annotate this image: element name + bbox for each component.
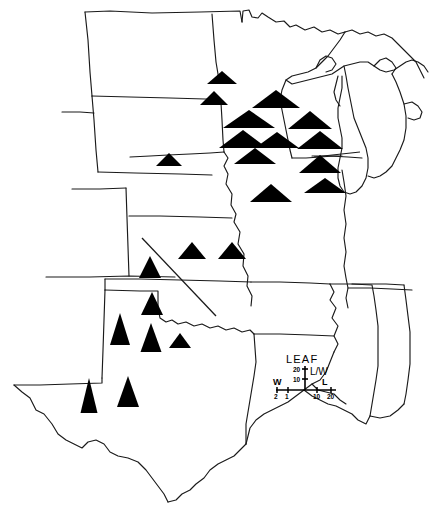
leaf-symbol — [223, 110, 275, 128]
border-kansas-oklahoma — [105, 279, 251, 282]
border-gulf-alabama — [370, 404, 404, 418]
legend-ratio-tick-label-10: 10 — [293, 376, 301, 383]
coast-texas-gulf — [168, 444, 246, 502]
leaf-symbol — [252, 90, 300, 108]
border-north-montana-nd — [85, 11, 242, 22]
leaf-symbol — [207, 71, 237, 84]
michigan-thumb — [404, 102, 422, 120]
legend-width-tick-label-2: 2 — [274, 393, 278, 400]
border-texas-panhandle-west — [102, 290, 105, 378]
legend-length-tick-label-20: 20 — [327, 393, 335, 400]
border-kentucky-tennessee — [348, 288, 412, 290]
border-missouri-arkansas — [251, 282, 330, 284]
leaf-symbol — [141, 292, 163, 315]
border-arkansas-louisiana — [254, 334, 334, 336]
border-wyoming-colorado — [98, 172, 212, 175]
leaf-symbol — [139, 256, 161, 278]
legend-length-tick-label-10: 10 — [313, 393, 321, 400]
leaf-symbol — [141, 323, 162, 352]
lake-superior-north — [345, 30, 424, 78]
leaf-symbol — [255, 132, 299, 148]
lake-superior-south — [286, 32, 428, 84]
border-wyoming-west-notch — [62, 112, 94, 113]
border-colorado-west — [72, 188, 126, 189]
border-colorado-box-w — [126, 188, 129, 276]
border-nebraska-kansas — [129, 216, 232, 218]
border-missouri-river — [224, 152, 252, 306]
leaf-symbol — [110, 313, 130, 345]
border-dakotas-minnesota — [212, 14, 219, 80]
border-mississippi — [330, 284, 378, 416]
leaf-shape-distribution-map: LEAF Filled black triangles whose width … — [0, 0, 429, 520]
legend-ratio-label: L/W — [310, 366, 328, 377]
legend-width-tick-label-1: 1 — [285, 393, 289, 400]
border-sd-nebraska — [130, 152, 224, 157]
border-alabama-east — [404, 285, 410, 404]
border-wyoming-west — [92, 96, 98, 172]
legend-width-axis-label: W — [273, 377, 282, 387]
leaf-symbol — [297, 131, 343, 149]
legend-ratio-tick-label-20: 20 — [293, 366, 301, 373]
leaf-symbol — [169, 333, 191, 348]
leaf-symbol — [200, 91, 228, 105]
border-montana-west — [85, 12, 92, 96]
michigan-lower-east — [368, 74, 406, 178]
border-red-river — [158, 308, 254, 334]
legend-title: LEAF — [286, 353, 318, 365]
leaf-symbol — [178, 242, 206, 259]
river-mississippi — [330, 284, 338, 352]
border-minnesota-canada — [242, 10, 345, 34]
border-montana-wyoming — [92, 96, 215, 99]
leaf-symbol — [117, 376, 139, 407]
leaf-symbol — [250, 184, 292, 202]
map-canvas: LEAF 20 10 L/W W L 2 1 10 20 — [0, 0, 429, 520]
legend: LEAF 20 10 L/W W L 2 1 10 20 — [273, 353, 336, 400]
leaf-symbol — [288, 111, 332, 129]
leaf-symbol — [234, 148, 276, 164]
legend-length-axis-label: L — [322, 377, 328, 387]
